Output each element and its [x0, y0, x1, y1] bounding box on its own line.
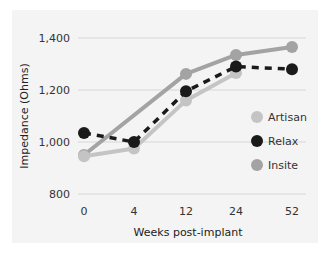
- x-tick-label: 24: [229, 205, 243, 218]
- x-tick-label: 52: [285, 205, 299, 218]
- y-tick-label: 1,000: [39, 136, 71, 149]
- data-point: [286, 63, 298, 75]
- data-point: [78, 150, 90, 162]
- data-point: [180, 68, 192, 80]
- y-tick-label: 800: [49, 188, 70, 201]
- x-axis-ticks: 04122452: [81, 205, 300, 218]
- legend-item-relax: Relax: [251, 135, 299, 148]
- data-point: [230, 61, 242, 73]
- legend-label: Relax: [268, 135, 299, 148]
- y-axis-ticks: 8001,0001,2001,400: [39, 32, 71, 201]
- legend-item-artisan: Artisan: [251, 111, 307, 124]
- data-point: [78, 127, 90, 139]
- data-point: [230, 49, 242, 61]
- legend-label: Artisan: [268, 111, 307, 124]
- data-point: [286, 41, 298, 53]
- x-tick-label: 4: [131, 205, 138, 218]
- legend-marker-icon: [251, 135, 263, 147]
- data-series: [78, 41, 298, 162]
- impedance-line-chart: 8001,0001,2001,400 04122452 Impedance (O…: [0, 0, 329, 255]
- x-tick-label: 12: [179, 205, 193, 218]
- y-tick-label: 1,400: [39, 32, 71, 45]
- legend-marker-icon: [251, 111, 263, 123]
- y-axis-label: Impedance (Ohms): [18, 63, 31, 168]
- data-point: [180, 85, 192, 97]
- x-tick-label: 0: [81, 205, 88, 218]
- legend-item-insite: Insite: [251, 159, 298, 172]
- series-artisan: [78, 67, 242, 162]
- legend-marker-icon: [251, 159, 263, 171]
- series-line: [84, 73, 236, 156]
- data-point: [128, 136, 140, 148]
- legend-label: Insite: [268, 159, 298, 172]
- x-axis-label: Weeks post-implant: [134, 226, 244, 239]
- y-tick-label: 1,200: [39, 84, 71, 97]
